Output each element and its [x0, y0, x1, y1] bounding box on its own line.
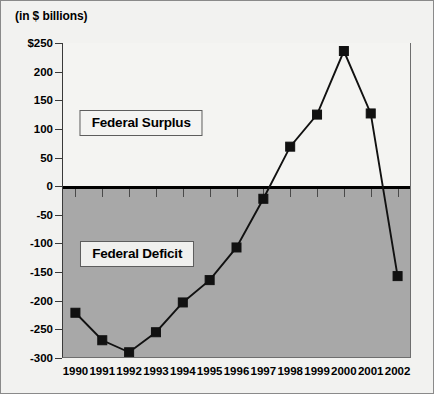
y-axis-tick	[55, 301, 62, 302]
data-point-marker	[339, 47, 348, 56]
plot-area: $250200150100500-50-100-150-200-250-300 …	[62, 43, 411, 358]
data-point-marker	[286, 142, 295, 151]
x-axis-tick-label: 1998	[277, 365, 303, 377]
y-axis-tick-label: 150	[34, 94, 53, 106]
y-axis-tick	[55, 100, 62, 101]
y-axis-tick-label: -100	[30, 237, 53, 249]
y-axis-tick	[55, 329, 62, 330]
y-axis-tick-label: -250	[30, 323, 53, 335]
x-axis-tick-label: 1995	[197, 365, 223, 377]
data-series-svg	[62, 43, 411, 358]
y-axis-tick-label: 0	[47, 180, 53, 192]
data-point-marker	[313, 110, 322, 119]
x-axis-tick-label: 1992	[116, 365, 142, 377]
x-axis-tick-label: 1991	[89, 365, 115, 377]
y-axis-tick	[55, 72, 62, 73]
x-axis-tick-label: 1996	[224, 365, 250, 377]
chart-figure: (in $ billions) $250200150100500-50-100-…	[0, 0, 434, 394]
annotation-federal-surplus: Federal Surplus	[80, 110, 203, 136]
series-markers	[71, 47, 402, 357]
y-axis-tick-label: $250	[27, 37, 53, 49]
x-axis-tick-label: 2001	[358, 365, 384, 377]
x-axis-tick-label: 1997	[251, 365, 277, 377]
data-point-marker	[98, 336, 107, 345]
y-axis-tick	[55, 272, 62, 273]
data-point-marker	[393, 272, 402, 281]
x-axis-tick-label: 1994	[170, 365, 196, 377]
y-axis-tick-label: 200	[34, 66, 53, 78]
y-axis-tick-label: -50	[36, 209, 53, 221]
y-axis-tick-label: -200	[30, 295, 53, 307]
y-axis-tick	[55, 215, 62, 216]
data-point-marker	[178, 298, 187, 307]
data-point-marker	[151, 328, 160, 337]
y-axis-tick-label: 50	[40, 152, 53, 164]
y-axis-tick	[55, 43, 62, 44]
y-axis-tick-label: -300	[30, 352, 53, 364]
series-line	[75, 51, 397, 352]
y-axis-tick	[55, 158, 62, 159]
annotation-federal-deficit: Federal Deficit	[80, 241, 194, 267]
x-axis-tick-label: 2000	[331, 365, 357, 377]
y-axis-tick	[55, 243, 62, 244]
y-axis-tick	[55, 186, 62, 187]
data-point-marker	[205, 276, 214, 285]
data-point-marker	[232, 243, 241, 252]
data-point-marker	[71, 308, 80, 317]
y-axis-tick-label: 100	[34, 123, 53, 135]
axis-units-label: (in $ billions)	[15, 9, 88, 23]
x-axis-tick-label: 1999	[304, 365, 330, 377]
data-point-marker	[125, 348, 134, 357]
x-axis-tick-label: 2002	[385, 365, 411, 377]
y-axis-tick-label: -150	[30, 266, 53, 278]
data-point-marker	[366, 109, 375, 118]
x-axis-tick-label: 1993	[143, 365, 169, 377]
y-axis-tick	[55, 129, 62, 130]
data-point-marker	[259, 194, 268, 203]
y-axis-tick	[55, 358, 62, 359]
x-axis-tick-label: 1990	[63, 365, 89, 377]
